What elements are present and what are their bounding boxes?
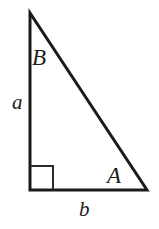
right-angle-marker-icon [30, 166, 53, 189]
triangle-outline [30, 13, 147, 190]
angle-label-B: B [32, 46, 46, 69]
right-triangle-figure: B a A b [0, 0, 159, 229]
side-label-a: a [12, 92, 23, 113]
angle-label-A: A [107, 164, 121, 187]
triangle-drawing [0, 0, 159, 229]
side-label-b: b [79, 199, 90, 220]
